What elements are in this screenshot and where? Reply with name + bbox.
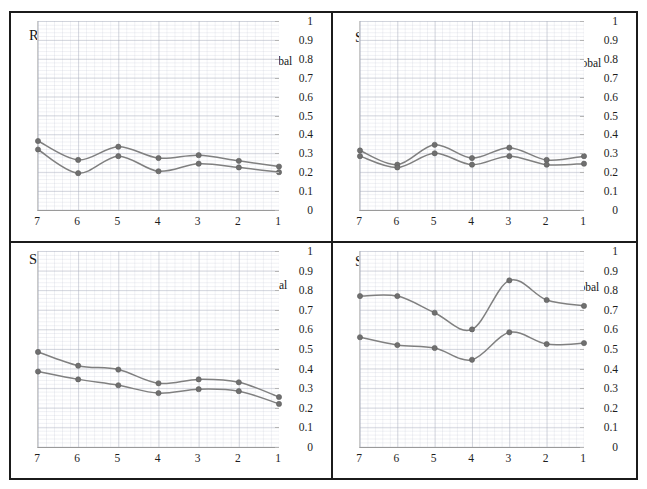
plot-area xyxy=(37,251,279,448)
x-tick-label: 5 xyxy=(114,215,120,227)
y-tick-label: 0.6 xyxy=(299,91,313,103)
x-tick-label: 7 xyxy=(34,452,40,464)
y-tick-label: 0.4 xyxy=(604,128,618,140)
y-tick-label: 0.2 xyxy=(299,402,313,414)
x-tick-label: 2 xyxy=(235,452,241,464)
data-point xyxy=(156,391,161,396)
data-point xyxy=(76,377,81,382)
y-tick-label: 0.5 xyxy=(604,110,618,122)
x-tick-label: 6 xyxy=(393,452,399,464)
data-point xyxy=(116,383,121,388)
plot-area xyxy=(37,21,279,211)
y-tick-label: 1 xyxy=(612,245,618,257)
y-tick-label: 0 xyxy=(307,204,313,216)
x-tick-label: 3 xyxy=(195,215,201,227)
y-tick-label: 0.2 xyxy=(604,402,618,414)
chart-short-column: Short column PG0 DI Global xyxy=(11,243,331,478)
y-tick-label: 1 xyxy=(307,245,313,257)
y-tick-label: 0.2 xyxy=(299,166,313,178)
plot-area-wrapper xyxy=(359,21,584,211)
x-tick-label: 6 xyxy=(393,215,399,227)
series-line-pg0 xyxy=(38,372,279,404)
y-tick-label: 0.9 xyxy=(604,265,618,277)
data-point xyxy=(35,349,40,354)
y-tick-label: 0.3 xyxy=(299,147,313,159)
x-axis-labels: 7654321 xyxy=(37,452,279,468)
data-point xyxy=(196,161,201,166)
y-tick-label: 1 xyxy=(307,15,313,27)
data-point xyxy=(196,377,201,382)
data-point xyxy=(76,157,81,162)
data-point xyxy=(236,380,241,385)
data-point xyxy=(116,154,121,159)
data-point xyxy=(236,389,241,394)
series-canvas xyxy=(360,21,584,210)
x-tick-label: 1 xyxy=(580,215,586,227)
panel-regular-structure: Regular structure PG0 DI Global xyxy=(11,13,333,243)
data-point xyxy=(544,162,549,167)
y-tick-label: 0.6 xyxy=(604,91,618,103)
x-tick-label: 5 xyxy=(431,215,437,227)
y-tick-label: 0.4 xyxy=(299,128,313,140)
panel-short-column: Short column PG0 DI Global xyxy=(11,243,333,478)
series-canvas xyxy=(38,251,279,447)
data-point xyxy=(156,155,161,160)
data-point xyxy=(507,145,512,150)
plot-area-wrapper xyxy=(359,251,584,448)
y-tick-label: 0.1 xyxy=(604,185,618,197)
figure-frame: Regular structure PG0 DI Global xyxy=(9,11,638,480)
x-tick-label: 3 xyxy=(505,452,511,464)
data-point xyxy=(432,151,437,156)
y-tick-label: 0 xyxy=(612,204,618,216)
y-tick-label: 0.3 xyxy=(604,147,618,159)
y-tick-label: 0.5 xyxy=(299,110,313,122)
panel-grid: Regular structure PG0 DI Global xyxy=(11,13,636,478)
x-tick-label: 7 xyxy=(356,215,362,227)
x-tick-label: 1 xyxy=(275,215,281,227)
x-tick-label: 7 xyxy=(356,452,362,464)
y-tick-label: 0.6 xyxy=(604,323,618,335)
data-point xyxy=(507,154,512,159)
data-point xyxy=(507,330,512,335)
y-axis-labels: 00.10.20.30.40.50.60.70.80.91 xyxy=(279,251,313,448)
data-point xyxy=(432,142,437,147)
data-point xyxy=(357,154,362,159)
data-point xyxy=(432,345,437,350)
panel-setback-irregularity: Setback irregularity PG0 DI Global xyxy=(333,13,636,243)
x-tick-label: 4 xyxy=(468,215,474,227)
x-tick-label: 6 xyxy=(74,452,80,464)
data-point xyxy=(469,162,474,167)
y-tick-label: 0.6 xyxy=(299,323,313,335)
x-tick-label: 3 xyxy=(195,452,201,464)
data-point xyxy=(432,310,437,315)
data-point xyxy=(544,342,549,347)
y-tick-label: 0.5 xyxy=(604,343,618,355)
x-tick-label: 2 xyxy=(543,215,549,227)
x-tick-label: 2 xyxy=(543,452,549,464)
y-axis-labels: 00.10.20.30.40.50.60.70.80.91 xyxy=(279,21,313,211)
series-line-pg0 xyxy=(360,332,584,360)
x-tick-label: 2 xyxy=(235,215,241,227)
data-point xyxy=(544,157,549,162)
y-tick-label: 0.9 xyxy=(299,34,313,46)
data-point xyxy=(544,297,549,302)
data-point xyxy=(357,148,362,153)
data-point xyxy=(469,155,474,160)
x-tick-label: 3 xyxy=(505,215,511,227)
x-tick-label: 1 xyxy=(275,452,281,464)
data-point xyxy=(35,369,40,374)
data-point xyxy=(395,293,400,298)
data-point xyxy=(35,138,40,143)
data-point xyxy=(357,293,362,298)
data-point xyxy=(156,169,161,174)
chart-setback-irregularity: Setback irregularity PG0 DI Global xyxy=(333,13,636,241)
data-point xyxy=(395,165,400,170)
series-canvas xyxy=(360,251,584,447)
y-tick-label: 0.3 xyxy=(299,382,313,394)
y-tick-label: 0.8 xyxy=(604,53,618,65)
data-point xyxy=(196,387,201,392)
series-canvas xyxy=(38,21,279,210)
y-tick-label: 0.1 xyxy=(299,421,313,433)
plot-area-wrapper xyxy=(37,21,279,211)
data-point xyxy=(76,171,81,176)
